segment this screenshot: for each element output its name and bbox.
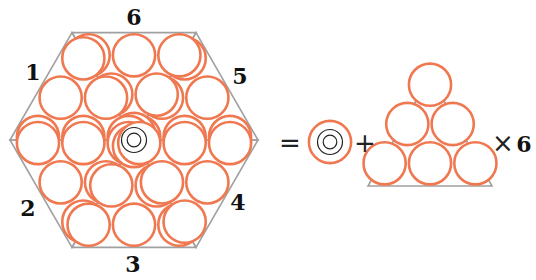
hex-circle — [186, 77, 228, 119]
label-section-4: 4 — [230, 189, 245, 215]
label-section-1: 1 — [25, 59, 40, 85]
hex-circle — [136, 74, 178, 116]
hex-circle — [113, 34, 155, 76]
hex-circle — [62, 37, 104, 79]
plus-sign: + — [354, 128, 376, 158]
center-circle — [309, 121, 351, 163]
label-section-3: 3 — [125, 251, 140, 277]
hex-circle — [90, 164, 132, 206]
equation-group — [309, 64, 497, 186]
hex-circle — [40, 161, 82, 203]
hex-circle — [68, 204, 110, 246]
hex-circle — [141, 161, 183, 203]
hex-circle — [164, 201, 206, 243]
triangle-circle — [409, 64, 451, 106]
label-section-5: 5 — [232, 63, 247, 89]
hex-circle — [85, 77, 127, 119]
hex-circle — [158, 34, 200, 76]
hex-circle — [40, 77, 82, 119]
label-section-6: 6 — [126, 4, 141, 30]
hex-circle — [62, 122, 104, 164]
hex-circle — [186, 161, 228, 203]
triangle-circle — [432, 103, 474, 145]
times-sign: × — [492, 128, 514, 158]
label-section-2: 2 — [20, 195, 35, 221]
triangle-circle — [454, 142, 496, 184]
equals-sign: = — [279, 128, 301, 158]
triangle-circle — [409, 142, 451, 184]
hex-circle — [209, 122, 251, 164]
hexagon-decomposition — [10, 33, 258, 248]
hex-circle — [164, 122, 206, 164]
triangle-circle — [386, 103, 428, 145]
hex-circle — [113, 204, 155, 246]
hex-circle — [17, 122, 59, 164]
multiplier-value: 6 — [516, 131, 531, 157]
hexagon-packing-diagram: 6 1 5 2 4 3 = + × 6 — [0, 0, 536, 280]
